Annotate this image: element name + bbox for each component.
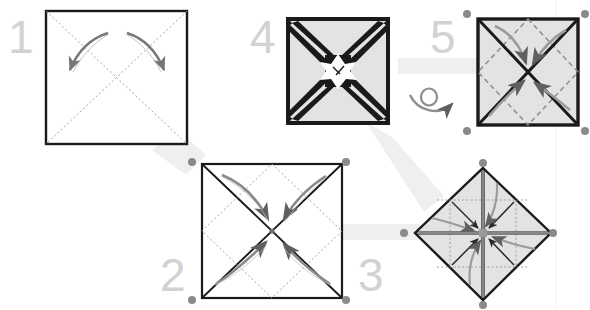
corner-handle-dot[interactable] (342, 296, 350, 304)
corner-handle-dot[interactable] (549, 229, 557, 237)
turn-over-loop (410, 95, 452, 111)
corner-handle-dot[interactable] (463, 127, 471, 135)
step-number-5: 5 (430, 14, 456, 60)
corner-handle-dot[interactable] (581, 127, 589, 135)
turn-over-circle (421, 89, 437, 106)
origami-instruction-diagram: 1 2 3 4 5 (0, 0, 590, 310)
step-number-4: 4 (250, 14, 276, 60)
turn-over-symbol (410, 89, 452, 111)
step-2-figure (202, 164, 342, 298)
corner-handle-dot[interactable] (188, 296, 196, 304)
corner-handle-dot[interactable] (342, 158, 350, 166)
step-5-figure (478, 19, 578, 125)
corner-handle-dot[interactable] (581, 10, 589, 18)
step-number-1: 1 (8, 14, 34, 60)
corner-handle-dot[interactable] (479, 301, 487, 309)
step-number-3: 3 (358, 252, 384, 298)
step-1-figure (46, 11, 187, 144)
step-2-center-dot (269, 228, 274, 233)
diagram-canvas (0, 0, 590, 310)
corner-handle-dot[interactable] (400, 229, 408, 237)
corner-handle-dot[interactable] (479, 159, 487, 167)
corner-handle-dot[interactable] (463, 10, 471, 18)
step-4-figure (288, 19, 388, 123)
step-number-2: 2 (160, 252, 186, 298)
corner-handle-dot[interactable] (188, 158, 196, 166)
flow-band-4-to-3 (366, 122, 444, 212)
step-3-center-square (479, 229, 487, 237)
